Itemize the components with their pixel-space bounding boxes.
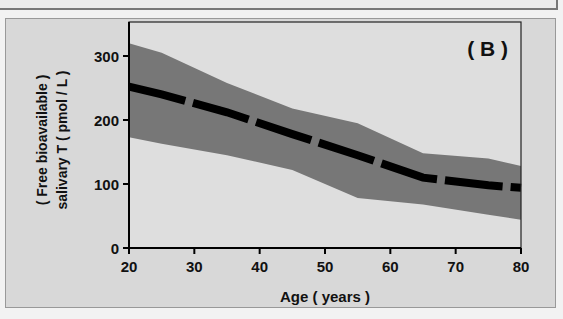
y-tick-label: 200 — [94, 112, 119, 129]
panel-label: ( B ) — [467, 37, 508, 60]
y-tick-label: 300 — [94, 48, 119, 65]
chart-svg: 010020030020304050607080 ( B ) Age ( yea… — [0, 0, 563, 319]
x-axis-label: Age ( years ) — [280, 288, 370, 305]
x-tick-label: 50 — [317, 258, 334, 275]
x-tick-label: 70 — [447, 258, 464, 275]
y-axis-label-line2: salivary T ( pmol / L ) — [54, 70, 70, 209]
y-tick-label: 100 — [94, 176, 119, 193]
x-tick-label: 60 — [382, 258, 399, 275]
x-tick-label: 40 — [251, 258, 268, 275]
x-tick-label: 30 — [186, 258, 203, 275]
y-tick-label: 0 — [111, 240, 119, 257]
x-tick-label: 80 — [513, 258, 530, 275]
x-tick-label: 20 — [121, 258, 138, 275]
y-axis-label-line1: ( Free bioavailable ) — [34, 75, 50, 206]
